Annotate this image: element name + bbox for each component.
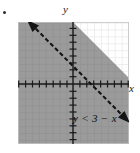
bullet-marker-icon — [3, 11, 6, 14]
y-axis-label: y — [63, 3, 68, 15]
inequality-label: y < 3 − x — [73, 112, 117, 124]
inequality-graph-figure: y x y < 3 − x — [0, 0, 140, 153]
graph-svg — [18, 22, 129, 144]
x-axis-label: x — [129, 82, 134, 94]
plot-area — [18, 22, 129, 144]
